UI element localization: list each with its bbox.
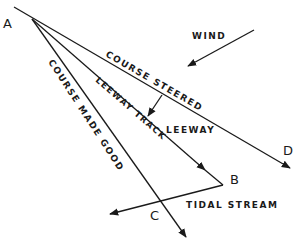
- tidal-stream-label: TIDAL STREAM: [186, 200, 278, 210]
- wind-label: WIND: [192, 31, 226, 41]
- course-steered-line: [14, 7, 290, 168]
- course-made-good-label: COURSE MADE GOOD: [46, 58, 126, 173]
- track-to-b-segment: [205, 170, 223, 185]
- point-d-label: D: [283, 143, 293, 158]
- leeway-arrow: [148, 95, 162, 116]
- point-c-label: C: [150, 208, 159, 223]
- point-a-label: A: [3, 16, 12, 31]
- navigation-vector-diagram: A B C D WIND COURSE STEERED LEEWAY TRACK…: [0, 0, 303, 248]
- point-b-label: B: [230, 172, 239, 187]
- leeway-label: LEEWAY: [166, 125, 215, 135]
